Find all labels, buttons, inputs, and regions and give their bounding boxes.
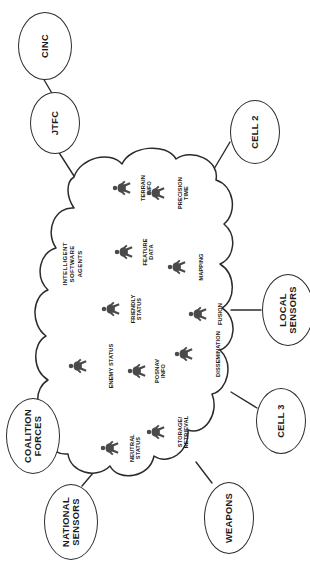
agent-person-icon	[146, 422, 166, 442]
agent-person-icon	[167, 257, 187, 277]
node-label: CELL 2	[250, 115, 260, 149]
agent-terrain-info: TERRAIN INFO	[112, 178, 132, 198]
agent-fusion: FUSION	[188, 304, 208, 324]
node-label: CELL 3	[276, 404, 286, 438]
agent-person-icon	[101, 299, 121, 319]
agent-label: MAPPING	[198, 253, 204, 280]
agent-label: STORAGE/ RETRIEVAL	[177, 416, 190, 449]
node-label: WEAPONS	[224, 493, 234, 543]
node-label: CINC	[40, 34, 50, 58]
agent-label: FRIENDLY STATUS	[130, 295, 143, 324]
node-label: JTFC	[50, 111, 60, 135]
agent-storage-retrieval: STORAGE/ RETRIEVAL	[146, 422, 166, 442]
node-label: NATIONAL SENSORS	[61, 497, 82, 547]
node-coalition-forces[interactable]: COALITION FORCES	[6, 398, 60, 474]
agent-person-icon	[68, 356, 88, 376]
agent-label: PRECISION TIME	[177, 177, 190, 209]
agent-feature-data: FEATURE DATA	[114, 242, 134, 262]
agent-friendly-status: FRIENDLY STATUS	[101, 299, 121, 319]
agent-person-icon	[127, 361, 147, 381]
agent-person-icon	[188, 304, 208, 324]
agent-label: DISSEMINATION	[215, 331, 221, 377]
node-jtfc[interactable]: JTFC	[30, 92, 80, 154]
link-cell2-cloud	[214, 142, 230, 169]
link-cell3-cloud	[231, 392, 257, 408]
diagram-vectors	[0, 0, 310, 571]
agent-dissemination: DISSEMINATION	[174, 344, 194, 364]
node-local-sensors[interactable]: LOCAL SENSORS	[262, 274, 310, 346]
node-weapons[interactable]: WEAPONS	[204, 482, 254, 554]
node-cell-2[interactable]: CELL 2	[230, 100, 280, 164]
agent-enemy-status: ENEMY STATUS	[68, 356, 88, 376]
agent-label: FUSION	[217, 303, 223, 325]
agent-label: NEUTRAL STATUS	[129, 434, 142, 462]
agent-person-icon	[146, 183, 166, 203]
agent-posnav-info: POSNAV INFO	[127, 361, 147, 381]
node-cell-3[interactable]: CELL 3	[256, 388, 306, 454]
link-jtfc-cloud	[58, 151, 74, 176]
node-label: COALITION FORCES	[23, 409, 44, 463]
link-weapons-cloud	[196, 462, 212, 483]
node-label: LOCAL SENSORS	[278, 286, 299, 334]
agent-label: POSNAV INFO	[154, 359, 167, 383]
agent-precision-time: PRECISION TIME	[146, 183, 166, 203]
diagram-canvas: INTELLIGENT SOFTWARE AGENTS TERRAIN INFO…	[0, 0, 310, 571]
agent-person-icon	[114, 242, 134, 262]
agent-neutral-status: NEUTRAL STATUS	[100, 438, 120, 458]
agent-person-icon	[112, 178, 132, 198]
agent-mapping: MAPPING	[167, 257, 187, 277]
agent-label: ENEMY STATUS	[108, 344, 114, 389]
agent-label: FEATURE DATA	[142, 238, 155, 265]
node-national-sensors[interactable]: NATIONAL SENSORS	[44, 484, 98, 560]
agent-person-icon	[100, 438, 120, 458]
cloud-caption: INTELLIGENT SOFTWARE AGENTS	[61, 234, 83, 294]
agent-person-icon	[174, 344, 194, 364]
node-cinc[interactable]: CINC	[18, 12, 72, 80]
